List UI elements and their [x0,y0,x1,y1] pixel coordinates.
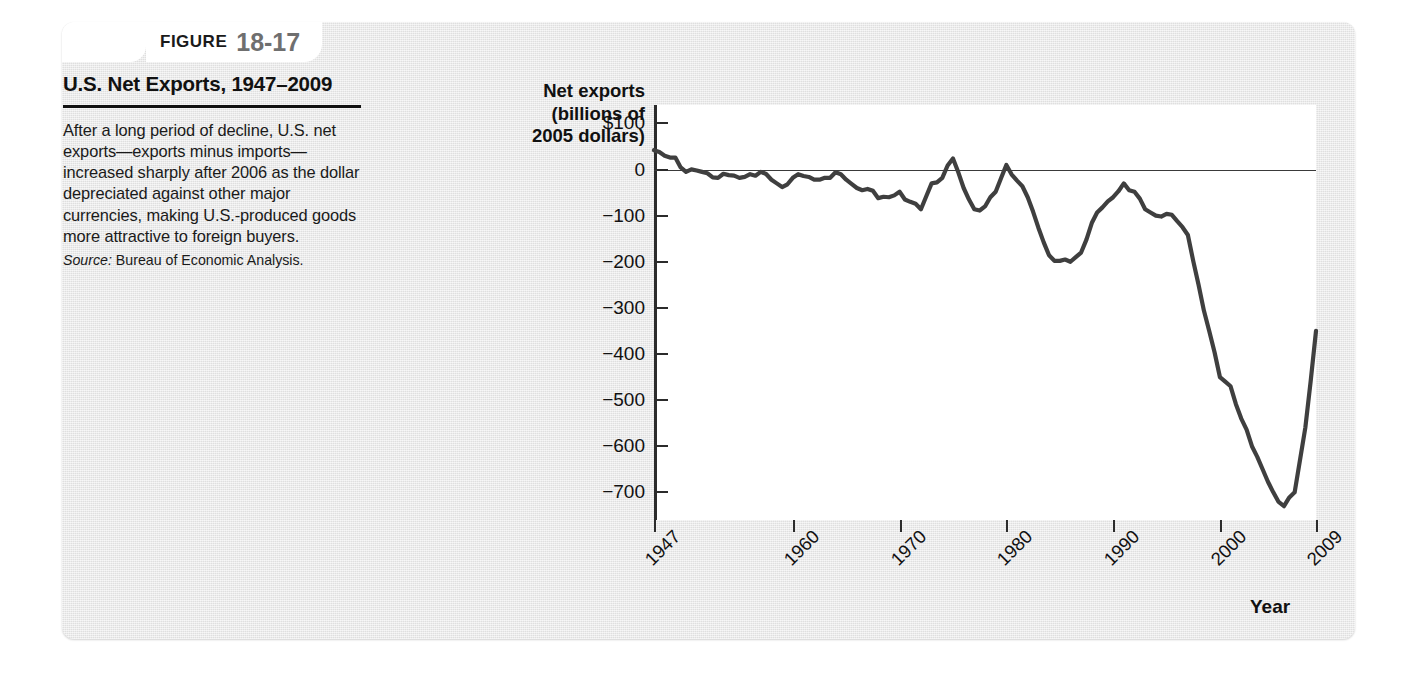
x-axis-title: Year [1250,596,1290,618]
y-tick-label: −400 [602,343,645,365]
data-series-line [654,105,1316,520]
y-tick-label: 0 [634,159,645,181]
x-tick-label: 1970 [886,526,931,571]
data-line-u.s.-net-exports [654,150,1316,506]
source-label: Source: [63,252,112,268]
chart-area: Net exports(billions of2005 dollars) $10… [470,80,1350,620]
y-tick-label: −300 [602,297,645,319]
y-tick-label: −600 [602,435,645,457]
x-tick-label: 2009 [1302,526,1347,571]
source-text: Bureau of Economic Analysis. [116,252,304,268]
figure-title: U.S. Net Exports, 1947–2009 [63,72,363,96]
caption-block: U.S. Net Exports, 1947–2009 After a long… [63,72,363,268]
x-tick-label: 1960 [779,526,824,571]
x-tick-label: 1980 [993,526,1038,571]
y-tick-label: $100 [603,112,645,134]
figure-source: Source: Bureau of Economic Analysis. [63,252,363,268]
figure-tab-notch [62,22,146,62]
figure-header: FIGURE 18-17 [146,22,322,62]
x-tick-mark [654,520,656,532]
x-tick-mark [1113,520,1115,532]
x-tick-mark [1006,520,1008,532]
x-tick-mark [1316,520,1318,532]
x-tick-mark [900,520,902,532]
x-tick-label: 1947 [640,526,685,571]
y-tick-label: −200 [602,251,645,273]
x-tick-label: 2000 [1206,526,1251,571]
figure-description: After a long period of decline, U.S. net… [63,120,363,248]
y-tick-label: −700 [602,481,645,503]
x-tick-mark [1220,520,1222,532]
x-tick-label: 1990 [1100,526,1145,571]
x-tick-mark [793,520,795,532]
y-tick-label: −100 [602,205,645,227]
figure-number: 18-17 [236,28,300,57]
y-tick-label: −500 [602,389,645,411]
figure-label: FIGURE [160,32,227,52]
title-divider [63,105,361,108]
y-axis-title-line: Net exports [470,80,645,103]
